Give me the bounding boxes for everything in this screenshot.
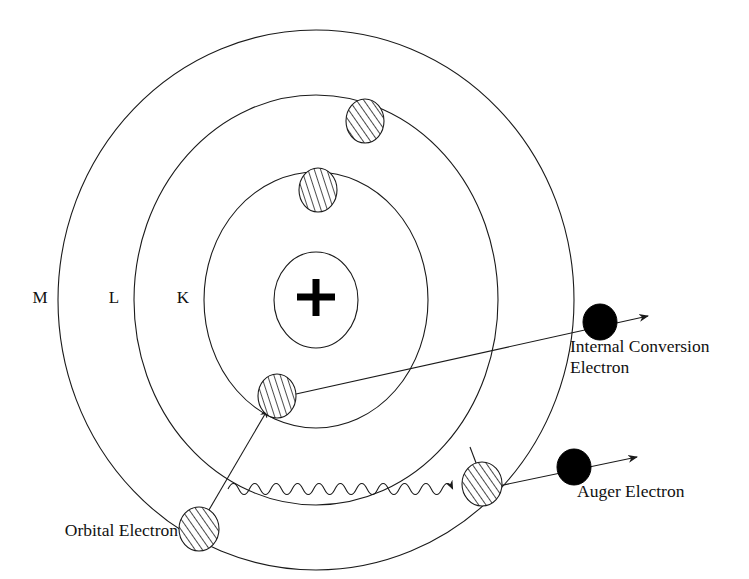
characteristic-xray-photon xyxy=(228,484,453,495)
orbital-electron-source xyxy=(179,507,219,551)
ic-label-line-2: Electron xyxy=(570,357,630,377)
shell-label-l: L xyxy=(109,288,119,307)
shell-label-k: K xyxy=(177,288,190,307)
l-shell-electron-upper-right xyxy=(346,99,384,143)
k-shell-vacancy-electron xyxy=(258,374,296,418)
auger-electron-dot xyxy=(557,449,591,485)
shell-label-m: M xyxy=(32,288,47,307)
orbital-electron-transition-arrow xyxy=(206,409,268,515)
internal-conversion-electron-label: Internal Conversion Electron xyxy=(570,336,714,377)
shell-labels-group: M L K xyxy=(32,288,189,307)
auger-electron-label: Auger Electron xyxy=(577,481,685,501)
k-shell-electron-top xyxy=(299,168,337,212)
annotations-group: Internal Conversion Electron Auger Elect… xyxy=(65,336,714,540)
internal-conversion-electron-dot xyxy=(583,304,617,340)
atom-diagram-canvas: M L K xyxy=(0,0,749,579)
nucleus-group xyxy=(274,252,358,348)
m-shell-auger-source-electron xyxy=(462,462,502,506)
ic-label-line-1: Internal Conversion xyxy=(570,336,710,356)
atomic-shell-diagram: M L K xyxy=(0,0,749,579)
orbital-electron-label: Orbital Electron xyxy=(65,520,178,540)
